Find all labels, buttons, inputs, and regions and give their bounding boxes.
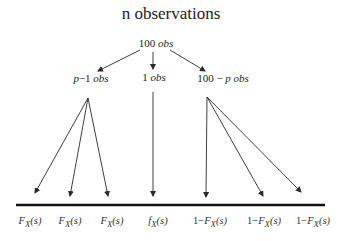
arrow-layer [0, 0, 342, 241]
arrow-left-to-outcome-1 [35, 98, 88, 193]
arrow-left-to-outcome-3 [88, 98, 108, 196]
outcome-label-4: fX(s) [148, 215, 167, 229]
outcome-label-2: FX(s) [59, 215, 82, 229]
arrow-right-to-outcome-6 [207, 97, 263, 196]
arrow-root-to-left [98, 50, 140, 71]
outcome-label-1: FX(s) [19, 215, 42, 229]
outcome-label-5: 1−FX(s) [193, 215, 227, 229]
outcome-arg: (s) [70, 215, 81, 226]
outcome-label-3: FX(s) [101, 215, 124, 229]
outcome-arg: (s) [30, 215, 41, 226]
outcome-label-7: 1−FX(s) [296, 215, 330, 229]
outcome-arg: (s) [157, 215, 168, 226]
arrow-right-to-outcome-5 [206, 97, 207, 197]
arrow-right-to-outcome-7 [207, 97, 301, 192]
outcome-prefix: 1− [296, 215, 307, 226]
arrow-left-to-outcome-2 [70, 98, 88, 196]
outcome-label-6: 1−FX(s) [247, 215, 281, 229]
outcome-arg: (s) [319, 215, 330, 226]
outcome-prefix: 1− [247, 215, 258, 226]
outcome-prefix: 1− [193, 215, 204, 226]
outcome-arg: (s) [216, 215, 227, 226]
observations-diagram: n observations 100 obs p−1 obs 1 obs 100… [0, 0, 342, 241]
outcome-arg: (s) [270, 215, 281, 226]
outcome-arg: (s) [112, 215, 123, 226]
arrow-root-to-right [170, 50, 205, 71]
